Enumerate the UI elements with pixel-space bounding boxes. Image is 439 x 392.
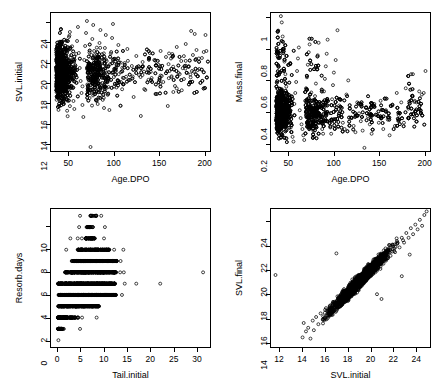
x-tick-label: 50 (268, 158, 308, 168)
y-tick-label: 24 (38, 22, 50, 66)
x-tick-mark (279, 348, 280, 352)
x-tick-mark (379, 152, 380, 156)
panel-svl-initial-vs-age: SVL.initial Age.DPO 12141618202224501001… (0, 0, 219, 196)
x-tick-label: 200 (405, 158, 439, 168)
x-tick-label: 150 (359, 158, 399, 168)
data-points-0 (51, 13, 210, 151)
plot-area-3 (270, 208, 431, 348)
x-tick-mark (68, 152, 69, 156)
x-tick-mark (425, 152, 426, 156)
panel-resorb-days-vs-tail: Resorb.days Tail.initial 024681005101520… (0, 196, 219, 392)
x-tick-mark (174, 348, 175, 352)
plot-area-2 (50, 208, 211, 348)
x-tick-label: 24 (396, 354, 436, 364)
x-tick-mark (371, 348, 372, 352)
x-tick-mark (288, 152, 289, 156)
x-tick-mark (393, 348, 394, 352)
x-axis-label-1: Age.DPO (270, 174, 431, 184)
y-tick-label: 24 (258, 221, 270, 265)
x-tick-label: 100 (314, 158, 354, 168)
data-points-3 (271, 209, 430, 347)
x-tick-mark (127, 348, 128, 352)
x-tick-mark (325, 348, 326, 352)
x-tick-label: 50 (48, 158, 88, 168)
x-tick-label: 150 (139, 158, 179, 168)
scatterplot-matrix-figure: SVL.initial Age.DPO 12141618202224501001… (0, 0, 439, 392)
x-tick-mark (150, 348, 151, 352)
x-tick-mark (348, 348, 349, 352)
x-tick-label: 30 (177, 354, 217, 364)
x-tick-label: 200 (185, 158, 225, 168)
y-tick-label: 1 (258, 17, 270, 61)
x-axis-label-2: Tail.initial (50, 370, 211, 380)
y-axis-label-3: SVL.final (232, 208, 246, 348)
y-tick-label: 10 (38, 226, 50, 270)
plot-area-0 (50, 12, 211, 152)
x-tick-mark (302, 348, 303, 352)
y-axis-label-2: Resorb.days (12, 208, 26, 348)
x-tick-mark (197, 348, 198, 352)
x-tick-mark (104, 348, 105, 352)
x-tick-mark (159, 152, 160, 156)
x-tick-mark (416, 348, 417, 352)
y-axis-label-0: SVL.initial (12, 12, 26, 152)
data-points-1 (271, 13, 430, 151)
x-tick-mark (57, 348, 58, 352)
panel-mass-final-vs-age: Mass.final Age.DPO 0.20.40.60.8150100150… (220, 0, 439, 196)
plot-area-1 (270, 12, 431, 152)
panel-svl-final-vs-svl-initial: SVL.final SVL.initial 141618202224121416… (220, 196, 439, 392)
x-tick-mark (334, 152, 335, 156)
x-tick-mark (80, 348, 81, 352)
x-axis-label-0: Age.DPO (50, 174, 211, 184)
x-tick-label: 100 (94, 158, 134, 168)
x-tick-mark (114, 152, 115, 156)
data-points-2 (51, 209, 210, 347)
y-axis-label-1: Mass.final (232, 12, 246, 152)
x-axis-label-3: SVL.initial (270, 370, 431, 380)
x-tick-mark (205, 152, 206, 156)
